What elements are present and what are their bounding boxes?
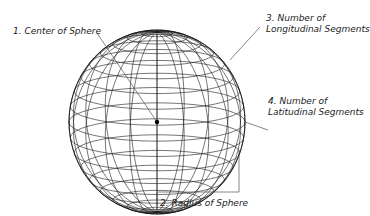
longitude-line [86, 31, 157, 212]
longitude-line [69, 32, 157, 212]
longitude-line [157, 32, 245, 212]
longitude-line [86, 32, 157, 213]
longitude-line [157, 31, 228, 212]
longitude-line [157, 32, 241, 212]
longitude-line [73, 32, 157, 212]
latitudinal-leader-line [245, 122, 268, 130]
longitude-line [157, 32, 228, 213]
longitudinal-leader-line [230, 27, 260, 60]
label-longitudinal-line1: 3. Number of [266, 13, 325, 24]
sphere-diagram: 1. Center of Sphere 2. Radius of Sphere … [0, 0, 370, 216]
label-latitudinal-line1: 4. Number of [268, 96, 327, 107]
center-leader-line [97, 33, 157, 122]
label-radius-of-sphere: 2. Radius of Sphere [160, 198, 248, 209]
label-latitudinal-line2: Latitudinal Segments [268, 107, 364, 118]
label-longitudinal-line2: Longitudinal Segments [266, 24, 370, 35]
longitude-line [73, 32, 157, 212]
longitude-line [157, 32, 241, 212]
label-center-of-sphere: 1. Center of Sphere [13, 26, 101, 37]
center-point [155, 120, 159, 124]
